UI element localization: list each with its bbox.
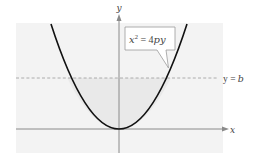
x-axis-arrow-icon — [222, 127, 229, 132]
y-axis-arrow-icon — [117, 14, 122, 21]
line-label: y = b — [223, 73, 244, 84]
y-axis-label: y — [116, 3, 123, 13]
parabola-diagram: x y y = b x2 = 4py — [0, 0, 257, 162]
x-axis-label: x — [230, 125, 235, 135]
equation-label: x2 = 4py — [129, 33, 166, 45]
